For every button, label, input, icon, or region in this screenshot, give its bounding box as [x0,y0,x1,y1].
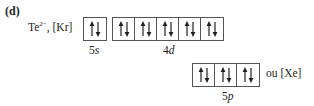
orbital-paired [193,64,215,86]
orbital-paired [113,18,135,40]
orbital-box-5p [192,63,260,87]
ion-notation: Te2−, [Kr] [28,20,72,33]
ion-symbol: Te [28,21,39,33]
ion-charge: 2− [39,20,46,28]
part-label: (d) [5,4,20,19]
subshell-label-5p: 5p [222,90,234,102]
equivalent-config: ou [Xe] [266,67,301,79]
orbital-paired [84,18,106,40]
subshell-label-4d: 4d [163,44,175,56]
ion-separator: , [47,21,50,33]
orbital-paired [135,18,157,40]
orbital-box-5s [83,17,107,41]
spin-pair-icon [219,67,233,83]
orbital-paired [157,18,179,40]
orbital-paired [201,18,223,40]
orbital-paired [215,64,237,86]
spin-pair-icon [183,21,197,37]
orbital-paired [179,18,201,40]
spin-pair-icon [117,21,131,37]
spin-pair-icon [88,21,102,37]
orbital-box-4d [112,17,224,41]
orbital-paired [237,64,259,86]
equivalent-core: [Xe] [280,67,301,79]
equivalent-word: ou [266,67,278,79]
spin-pair-icon [161,21,175,37]
spin-pair-icon [241,67,255,83]
subshell-label-5s: 5s [89,44,99,56]
spin-pair-icon [139,21,153,37]
spin-pair-icon [197,67,211,83]
core-config: [Kr] [53,21,73,33]
spin-pair-icon [205,21,219,37]
